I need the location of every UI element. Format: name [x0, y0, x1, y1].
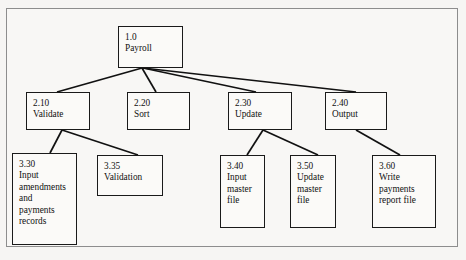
node-label-line: master: [297, 184, 335, 195]
node-label-line: records: [19, 216, 76, 227]
node-label-line: 2.10: [33, 98, 89, 109]
node-3-60[interactable]: 3.60Writepaymentsreport file: [372, 155, 436, 228]
node-label-line: 3.40: [227, 161, 264, 172]
diagram-canvas: 1.0Payroll2.10Validate2.20Sort2.30Update…: [0, 0, 466, 260]
node-3-35[interactable]: 3.35Validation: [97, 155, 163, 196]
node-label-line: amendments: [19, 182, 76, 193]
node-label-line: Payroll: [125, 43, 182, 54]
node-label-line: payments: [379, 184, 435, 195]
node-label-line: Update: [297, 172, 335, 183]
node-label-line: Input: [19, 170, 76, 181]
node-label-line: 3.30: [19, 159, 76, 170]
node-label-line: report file: [379, 195, 435, 206]
node-label-line: Write: [379, 172, 435, 183]
node-label-line: 2.20: [134, 98, 189, 109]
node-1-0[interactable]: 1.0Payroll: [118, 26, 183, 68]
node-2-10[interactable]: 2.10Validate: [26, 92, 90, 130]
node-label-line: Update: [235, 109, 291, 120]
node-label-line: and: [19, 193, 76, 204]
node-label-line: Input: [227, 172, 264, 183]
node-3-50[interactable]: 3.50Updatemasterfile: [290, 155, 336, 228]
node-label-line: Validation: [104, 172, 162, 183]
node-label-line: payments: [19, 205, 76, 216]
node-2-30[interactable]: 2.30Update: [228, 92, 292, 130]
node-label-line: Output: [332, 109, 386, 120]
node-3-40[interactable]: 3.40Inputmasterfile: [220, 155, 265, 228]
node-label-line: file: [227, 195, 264, 206]
node-label-line: 3.60: [379, 161, 435, 172]
node-label-line: 2.40: [332, 98, 386, 109]
node-label-line: Sort: [134, 109, 189, 120]
node-label-line: 3.35: [104, 161, 162, 172]
node-label-line: master: [227, 184, 264, 195]
node-label-line: Validate: [33, 109, 89, 120]
node-label-line: 3.50: [297, 161, 335, 172]
node-3-30[interactable]: 3.30Inputamendmentsandpaymentsrecords: [12, 153, 77, 245]
node-label-line: file: [297, 195, 335, 206]
node-label-line: 2.30: [235, 98, 291, 109]
node-2-40[interactable]: 2.40Output: [325, 92, 387, 130]
node-label-line: 1.0: [125, 32, 182, 43]
node-2-20[interactable]: 2.20Sort: [127, 92, 190, 130]
